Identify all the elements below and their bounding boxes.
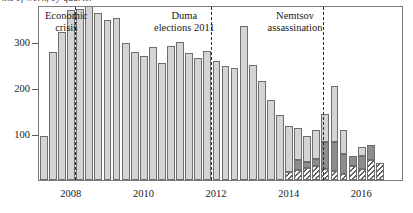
bar-segment-light [49,52,57,180]
bar-segment-dark [349,156,357,166]
bar-segment-light [303,136,311,161]
bar [94,6,102,180]
bar-segment-hatched [303,168,311,180]
bar-segment-hatched [358,169,366,180]
bar-segment-hatched [285,172,293,180]
bar-segment-light [158,63,166,180]
event-annotation-label: Economic crisis [45,10,88,34]
bar [331,6,339,180]
y-axis-label: 200 [0,84,30,95]
bar [240,6,248,180]
x-axis-label: 2010 [133,188,154,199]
bar-segment-dark [331,142,339,171]
plot-area [38,6,403,181]
y-axis-label: 100 [0,130,30,141]
bar-segment-light [358,147,366,156]
bar [113,6,121,180]
bar [376,6,384,180]
bar [358,6,366,180]
bar-segment-light [131,52,139,180]
chart-figure: ...s of work, by quarter 100200300 20082… [0,0,413,213]
bar-segment-light [240,26,248,180]
bar [131,6,139,180]
bar-segment-hatched [340,174,348,180]
bar-segment-light [94,13,102,180]
bar-segment-light [185,53,193,180]
bar-segment-light [176,42,184,180]
bar-segment-hatched [349,166,357,180]
bar-segment-light [122,43,130,180]
bar [340,6,348,180]
bar-segment-dark [367,145,375,160]
bar-segment-light [76,9,84,180]
event-annotation-label: Duma elections 2011 [154,10,215,34]
bar-segment-dark [358,156,366,169]
event-annotation-label: Nemtsov assassination [268,10,323,34]
bar [122,6,130,180]
bar-segment-dark [303,162,311,168]
chart-title: ...s of work, by quarter [2,0,93,3]
bar-segment-light [267,100,275,180]
bar-segment-light [285,126,293,172]
bar-segment-light [331,86,339,142]
bar-segment-dark [340,154,348,175]
bar-segment-hatched [312,166,320,180]
bar-segment-light [249,65,257,180]
bar-segment-hatched [331,171,339,180]
bar-segment-light [113,18,121,180]
bar-segment-light [222,66,230,180]
bar-segment-dark [294,160,302,170]
bar-segment-light [149,47,157,180]
bar-segment-dark [312,159,320,166]
bar [249,6,257,180]
bar-segment-hatched [367,160,375,180]
bar-segment-light [58,32,66,180]
bar-segment-light [194,58,202,180]
bar-segment-light [312,130,320,159]
bar [367,6,375,180]
bar [222,6,230,180]
bar [104,6,112,180]
bar-segment-light [258,81,266,180]
bar-segment-hatched [376,163,384,181]
bar-segment-light [104,20,112,180]
bar-segment-light [231,68,239,180]
bar [258,6,266,180]
bar [231,6,239,180]
bar-segment-light [294,128,302,159]
bar-segment-light [140,56,148,180]
bar-segment-light [40,136,48,180]
x-axis-label: 2016 [351,188,372,199]
x-axis-label: 2014 [278,188,299,199]
bar-segment-light [167,46,175,180]
bar-segment-light [276,115,284,180]
y-axis-label: 300 [0,38,30,49]
x-axis-label: 2012 [206,188,227,199]
bar-segment-light [213,61,221,180]
event-marker-line [323,7,324,180]
bar [140,6,148,180]
bar [349,6,357,180]
x-axis-label: 2008 [60,188,81,199]
bar-segment-light [340,130,348,154]
bar-segment-hatched [294,170,302,180]
